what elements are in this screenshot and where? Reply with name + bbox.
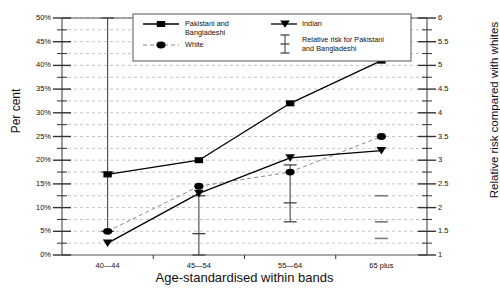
series-line-0 [290,61,381,104]
legend-label-pakistani-2: Bangladeshi [185,29,225,38]
y-tick-label-left: 35% [29,84,51,93]
legend-label-indian: Indian [302,20,322,29]
y-tick-label-right: 1.5 [438,226,448,235]
y-tick-label-left: 0% [29,250,51,259]
y-tick-label-left: 15% [29,179,51,188]
x-tick-label-1: 45—54 [159,261,239,270]
y-tick-label-left: 10% [29,203,51,212]
y-tick-label-left: 25% [29,132,51,141]
legend-label-relrisk-2: and Bangladeshi [302,45,356,54]
series-line-1 [108,186,199,231]
data-point-0-1 [195,157,203,163]
y-tick-label-right: 1 [438,250,442,259]
y-tick-label-right: 3 [438,155,442,164]
legend-marker-ellipse [156,42,165,49]
y-tick-label-left: 5% [29,226,51,235]
data-point-1-1 [194,183,203,190]
y-tick-label-right: 2.5 [438,179,448,188]
y-tick-label-left: 45% [29,37,51,46]
legend-label-pakistani-1: Pakistani and [185,20,229,29]
data-point-1-2 [286,169,295,176]
y-tick-label-left: 40% [29,60,51,69]
y-tick-label-right: 3.5 [438,132,448,141]
y-tick-label-right: 4 [438,108,442,117]
data-point-0-0 [103,171,111,177]
legend-marker-square [157,21,165,27]
series-line-2 [108,193,199,243]
y-tick-label-right: 4.5 [438,84,448,93]
series-line-2 [199,158,290,194]
data-point-1-0 [103,228,112,235]
y-tick-label-right: 2 [438,203,442,212]
x-tick-label-0: 40—44 [68,261,148,270]
series-line-2 [290,151,381,158]
y-tick-label-right: 6 [438,13,442,22]
y-tick-label-left: 30% [29,108,51,117]
y-tick-label-right: 5 [438,60,442,69]
y-tick-label-left: 20% [29,155,51,164]
data-point-1-3 [377,133,386,140]
y-tick-label-right: 5.5 [438,37,448,46]
data-point-0-2 [286,100,294,106]
x-tick-label-3: 65 plus [341,261,421,270]
x-tick-label-2: 55—64 [250,261,330,270]
y-tick-label-left: 50% [29,13,51,22]
legend-label-white: White [185,41,204,50]
series-line-0 [199,103,290,160]
